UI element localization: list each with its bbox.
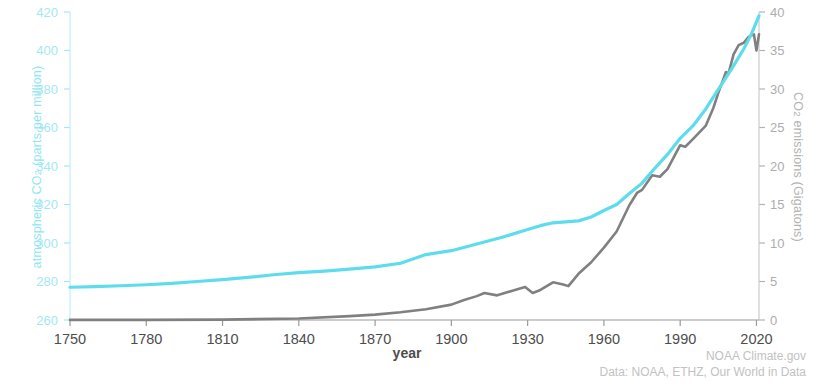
right-axis-title-tail: emissions (Gigatons)	[791, 117, 805, 242]
left-axis-title-tail: (parts per million)	[30, 66, 44, 170]
svg-text:20: 20	[770, 159, 784, 174]
right-axis-title: CO2 emissions (Gigatons)	[791, 27, 805, 307]
svg-text:10: 10	[770, 236, 784, 251]
credit-source: NOAA Climate.gov	[599, 348, 806, 364]
left-axis-title: atmospheric CO2 (parts per million)	[30, 27, 44, 307]
svg-text:260: 260	[36, 313, 58, 328]
svg-text:25: 25	[770, 120, 784, 135]
svg-text:30: 30	[770, 82, 784, 97]
svg-text:0: 0	[770, 313, 777, 328]
chart-credits: NOAA Climate.gov Data: NOAA, ETHZ, Our W…	[599, 348, 806, 380]
co2-chart-figure: 260280300320340360380400420 051015202530…	[0, 0, 814, 384]
left-axis-title-main: atmospheric CO	[30, 175, 44, 268]
credit-data: Data: NOAA, ETHZ, Our World in Data	[599, 364, 806, 380]
svg-text:5: 5	[770, 274, 777, 289]
svg-text:35: 35	[770, 43, 784, 58]
left-axis-title-subscript: 2	[32, 170, 43, 176]
svg-text:15: 15	[770, 197, 784, 212]
emissions-line-series	[70, 34, 759, 320]
svg-text:40: 40	[770, 5, 784, 20]
svg-text:420: 420	[36, 5, 58, 20]
right-axis-ticks: 0510152025303540	[759, 5, 784, 328]
co2-line-series	[70, 16, 759, 287]
right-axis-title-main: CO	[791, 92, 805, 111]
x-axis-ticks: 1750178018101840187019001930196019902020	[54, 320, 773, 347]
chart-plot-area: 260280300320340360380400420 051015202530…	[0, 0, 814, 384]
